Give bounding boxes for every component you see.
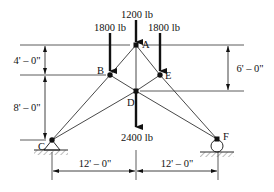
node-label-B: B	[97, 65, 104, 76]
dim-bottom-right: 12' – 0"	[161, 158, 193, 169]
node-label-F: F	[223, 131, 229, 142]
dim-left-upper: 4' – 0"	[13, 55, 40, 66]
load-arrows	[110, 20, 160, 127]
member-BC	[52, 75, 110, 140]
load-label-E: 1800 lb	[148, 22, 180, 33]
joint-E	[157, 72, 162, 77]
member-AB	[110, 45, 136, 75]
node-label-A: A	[142, 39, 150, 50]
extension-lines	[20, 45, 244, 180]
node-label-C: C	[38, 141, 45, 152]
load-label-B: 1800 lb	[94, 22, 126, 33]
member-EF	[160, 75, 217, 139]
joint-F	[215, 137, 220, 142]
dim-right: 6' – 0"	[236, 63, 263, 74]
joint-D	[134, 89, 139, 94]
joints	[49, 43, 219, 143]
joint-B	[107, 72, 112, 77]
load-label-D: 2400 lb	[121, 132, 153, 143]
joint-C	[49, 137, 54, 142]
load-label-A: 1200 lb	[121, 9, 153, 20]
node-label-E: E	[165, 70, 171, 81]
dim-bottom-left: 12' – 0"	[79, 158, 111, 169]
member-ED	[136, 75, 160, 91]
dim-left-lower: 8' – 0"	[13, 102, 40, 113]
node-label-D: D	[127, 97, 135, 108]
roller-support-F	[200, 140, 234, 157]
truss-diagram: 4' – 0" 8' – 0" 6' – 0" 12' – 0" 12' – 0…	[0, 0, 274, 192]
member-BD	[110, 75, 136, 91]
joint-A	[134, 43, 139, 48]
